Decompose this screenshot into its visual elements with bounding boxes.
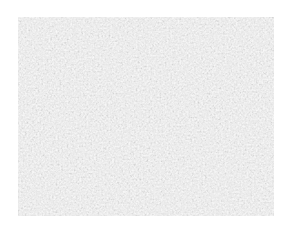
image-canvas <box>0 0 290 226</box>
speckle-texture <box>18 17 274 216</box>
noise-pattern <box>18 17 274 216</box>
